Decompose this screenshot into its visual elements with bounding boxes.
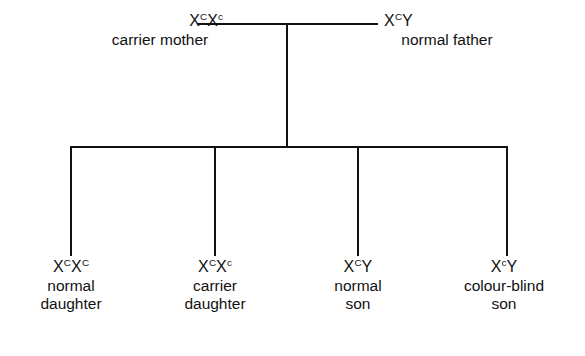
offspring-2-x1: X [198, 258, 209, 275]
parent-mother: XCXc carrier mother [96, 12, 224, 49]
mother-genotype-x2: X [207, 12, 218, 29]
parent-father: XCY normal father [382, 12, 512, 49]
father-label: normal father [382, 31, 512, 49]
offspring-3-x1: X [344, 258, 355, 275]
descent-line [286, 23, 288, 148]
sibship-line [70, 146, 508, 148]
father-genotype-x: X [384, 12, 395, 29]
offspring-3-phenotype-line-1: normal [288, 277, 428, 295]
mother-label: carrier mother [96, 31, 224, 49]
offspring-3-allele-1: C [354, 257, 361, 268]
offspring-1-label: normal daughter [1, 277, 141, 314]
offspring-1-x1: X [53, 258, 64, 275]
offspring-4-label: colour-blind son [434, 277, 574, 314]
offspring-1-allele-2: C [82, 257, 89, 268]
offspring-3: XCY normal son [288, 258, 428, 313]
mother-genotype: XCXc [96, 12, 224, 31]
offspring-4-x1: X [491, 258, 502, 275]
offspring-2: XCXc carrier daughter [145, 258, 285, 313]
offspring-2-genotype: XCXc [145, 258, 285, 277]
sibling-drop-2 [214, 146, 216, 256]
offspring-1-allele-1: C [64, 257, 71, 268]
pedigree-diagram: XCXc carrier mother XCY normal father XC… [0, 0, 585, 356]
father-genotype: XCY [382, 12, 512, 31]
offspring-4-phenotype-line-1: colour-blind [434, 277, 574, 295]
offspring-2-allele-2: c [227, 257, 232, 268]
offspring-3-phenotype-line-2: son [288, 295, 428, 313]
offspring-3-y: Y [362, 258, 373, 275]
offspring-2-label: carrier daughter [145, 277, 285, 314]
offspring-4: XcY colour-blind son [434, 258, 574, 313]
offspring-1: XCXC normal daughter [1, 258, 141, 313]
offspring-1-x2: X [71, 258, 82, 275]
mother-genotype-x1: X [189, 12, 200, 29]
sibling-drop-1 [70, 146, 72, 256]
father-genotype-y: Y [402, 12, 413, 29]
sibling-drop-4 [506, 146, 508, 256]
offspring-1-phenotype-line-1: normal [1, 277, 141, 295]
offspring-1-genotype: XCXC [1, 258, 141, 277]
offspring-3-genotype: XCY [288, 258, 428, 277]
offspring-2-x2: X [216, 258, 227, 275]
mother-allele-2: c [218, 11, 223, 22]
offspring-2-phenotype-line-2: daughter [145, 295, 285, 313]
offspring-2-phenotype-line-1: carrier [145, 277, 285, 295]
sibling-drop-3 [357, 146, 359, 256]
offspring-4-y: Y [506, 258, 517, 275]
offspring-4-genotype: XcY [434, 258, 574, 277]
offspring-3-label: normal son [288, 277, 428, 314]
offspring-1-phenotype-line-2: daughter [1, 295, 141, 313]
father-allele-1: C [395, 11, 402, 22]
offspring-4-phenotype-line-2: son [434, 295, 574, 313]
